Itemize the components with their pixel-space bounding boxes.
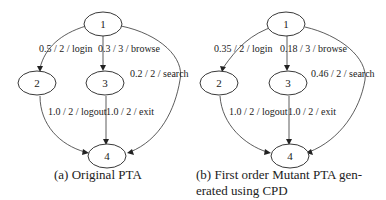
figure-b-caption-line2: erated using CPD: [196, 183, 386, 199]
edge-2-4: [40, 96, 85, 152]
state-label-2: 2: [216, 77, 222, 89]
figure-a-caption: (a) Original PTA: [54, 167, 142, 183]
edge-label-1-2: 0.35 / 2 / login: [214, 43, 273, 54]
edge-label-2-4: 1.0 / 2 / logout: [229, 106, 288, 117]
edge-label-1-4: 0.46 / 2 / search: [311, 68, 375, 79]
edge-label-1-3: 0.18 / 3 / browse: [280, 43, 348, 54]
state-label-1: 1: [283, 18, 289, 30]
arrowhead-icon: [100, 65, 106, 71]
edge-2-4: [220, 96, 267, 152]
arrowhead-icon: [127, 149, 134, 155]
edge-label-1-2: 0.5 / 2 / login: [39, 43, 93, 54]
figure-b-caption-line1: (b) First order Mutant PTA gen-: [196, 167, 386, 183]
edge-label-1-4: 0.2 / 2 / search: [130, 68, 189, 79]
arrowhead-icon: [284, 65, 290, 71]
state-label-1: 1: [100, 18, 106, 30]
state-label-4: 4: [287, 150, 293, 162]
figure-b-caption: (b) First order Mutant PTA gen- erated u…: [196, 167, 386, 199]
state-label-3: 3: [102, 77, 108, 89]
state-label-4: 4: [104, 150, 110, 162]
figure-b-graph: 1 2 3 4 0.35 / 2 / login 0.18 / 3 / brow…: [200, 12, 375, 168]
figure-a-graph: 1 2 3 4 0.5 / 2 / login 0.3 / 3 / browse…: [18, 12, 189, 168]
arrowhead-icon: [264, 149, 271, 155]
state-label-2: 2: [34, 77, 40, 89]
edge-label-3-4: 1.0 / 2 / exit: [106, 106, 154, 117]
state-label-3: 3: [285, 77, 291, 89]
edge-label-3-4: 1.0 / 2 / exit: [288, 106, 336, 117]
edge-label-2-4: 1.0 / 2 / logout: [48, 106, 107, 117]
edge-label-1-3: 0.3 / 3 / browse: [98, 43, 161, 54]
